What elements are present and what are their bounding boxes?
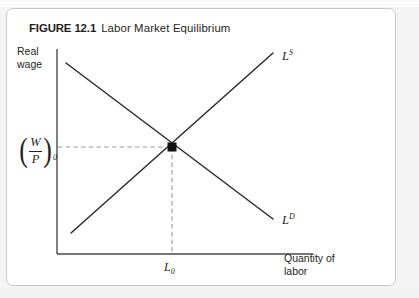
supply-label-base: L	[282, 49, 289, 63]
x-tick-base: L	[164, 260, 171, 274]
wage-numerator: W	[29, 136, 41, 150]
paren-close: )	[43, 137, 52, 164]
x-tick-subscript: 0	[171, 267, 175, 276]
x-axis-title: Quantity of labor	[284, 252, 354, 277]
y-axis-title-line2: wage	[17, 58, 59, 71]
y-axis-title-line1: Real	[17, 45, 59, 58]
equilibrium-point-marker	[168, 143, 177, 152]
wage-subscript: 0	[53, 153, 57, 162]
demand-label-superscript: D	[289, 212, 295, 221]
x-axis-title-line2: labor	[284, 265, 354, 278]
demand-label-base: L	[282, 213, 289, 227]
labor-demand-curve-label: LD	[282, 212, 295, 228]
wage-denominator: P	[31, 153, 41, 167]
x-axis-title-line1: Quantity of	[284, 252, 354, 265]
page-background: FIGURE 12.1Labor Market Equilibrium	[0, 0, 419, 298]
y-axis-title: Real wage	[17, 45, 59, 70]
x-axis-tick-equilibrium-quantity: L0	[164, 260, 175, 276]
chart-plot-area	[7, 9, 397, 287]
y-axis-tick-equilibrium-wage: ( W P ) 0	[18, 131, 57, 171]
scan-band-top	[0, 0, 419, 7]
supply-label-superscript: S	[289, 48, 293, 57]
labor-supply-curve-label: LS	[282, 48, 293, 64]
scan-band-bottom	[0, 288, 419, 298]
paren-open: (	[19, 137, 28, 164]
wage-fraction: W P	[29, 136, 42, 166]
labor-demand-curve	[66, 63, 273, 219]
figure-card: FIGURE 12.1Labor Market Equilibrium	[6, 8, 396, 286]
